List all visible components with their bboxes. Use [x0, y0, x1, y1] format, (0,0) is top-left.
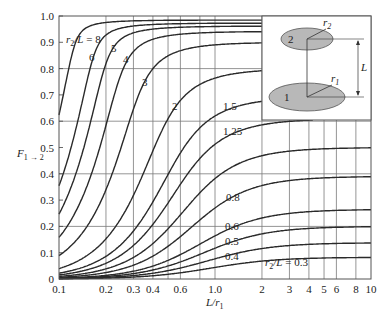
y-tick-label: 0.3	[40, 194, 54, 206]
y-tick-label: 0.9	[40, 36, 54, 48]
x-tick-label: 0.2	[99, 283, 113, 295]
x-tick-label: 3	[287, 283, 293, 295]
x-tick-label: 8	[353, 283, 359, 295]
curve-label: 1.25	[223, 125, 243, 137]
x-axis-title: L/r1	[205, 296, 223, 311]
y-tick-label: 0.4	[40, 168, 54, 180]
y-tick-label: 0.5	[40, 142, 54, 154]
y-tick-label: 0.6	[40, 115, 54, 127]
curve-label: 2	[172, 100, 178, 112]
curve-label: 0.8	[226, 191, 240, 203]
inset-diagram: 2 1 r2 r1 L	[262, 16, 371, 120]
y-tick-label: 0.1	[40, 247, 54, 259]
curve-label: 1.5	[223, 100, 237, 112]
x-tick-label: 6	[334, 283, 340, 295]
curve-label: 6	[89, 51, 95, 63]
y-tick-label: 0.7	[40, 89, 54, 101]
y-tick-label: 0.2	[40, 220, 54, 232]
x-tick-label: 1.0	[208, 283, 222, 295]
separation-L-label: L	[360, 61, 367, 73]
curve-label: 0.6	[225, 220, 239, 232]
x-tick-label: 10	[366, 283, 378, 295]
curve-label: r2/L = 8	[66, 33, 101, 48]
x-tick-label: 0.1	[52, 283, 66, 295]
x-tick-label: 2	[259, 283, 265, 295]
x-tick-label: 0.6	[174, 283, 188, 295]
x-tick-label: 0.4	[146, 283, 160, 295]
curve-label: 4	[123, 53, 129, 65]
curve-label: r2/L = 0.3	[265, 256, 308, 271]
x-tick-label: 5	[321, 283, 327, 295]
curve-label: 3	[142, 76, 148, 88]
view-factor-chart: r2/L = 8654321.51.250.80.60.50.4r2/L = 0…	[0, 0, 387, 319]
disk-1-label: 1	[284, 91, 290, 103]
y-tick-label: 1.0	[40, 10, 54, 22]
curve-label: 0.4	[225, 250, 239, 262]
y-tick-label: 0.8	[40, 63, 54, 75]
x-tick-label: 0.3	[127, 283, 141, 295]
curve-label: 0.5	[225, 235, 239, 247]
x-tick-label: 4	[306, 283, 312, 295]
disk-2-label: 2	[288, 33, 294, 45]
curve-label: 5	[111, 42, 117, 54]
